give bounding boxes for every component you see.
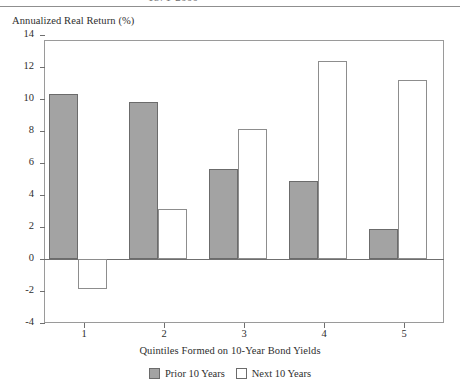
bar-prior-q3 <box>209 169 238 259</box>
bar-prior-q4 <box>289 181 318 259</box>
y-tick-mark <box>40 291 45 292</box>
bar-next-q1 <box>78 259 107 289</box>
legend-label: Next 10 Years <box>252 368 311 379</box>
y-tick-label: 8 <box>4 124 34 135</box>
y-tick-label: 4 <box>4 188 34 199</box>
x-tick-label: 5 <box>384 328 424 339</box>
y-tick-mark <box>40 323 45 324</box>
y-tick-label: 0 <box>4 252 34 263</box>
y-tick-label: 10 <box>4 92 34 103</box>
y-tick-mark <box>40 227 45 228</box>
y-tick-mark <box>40 163 45 164</box>
y-tick-label: -4 <box>4 316 34 327</box>
title-divider <box>0 6 460 7</box>
y-tick-label: 2 <box>4 220 34 231</box>
y-tick-mark <box>40 259 45 260</box>
bar-next-q3 <box>238 129 267 259</box>
x-axis-title: Quintiles Formed on 10-Year Bond Yields <box>0 345 460 356</box>
y-tick-label: 6 <box>4 156 34 167</box>
y-tick-mark <box>40 67 45 68</box>
y-tick-mark <box>40 131 45 132</box>
x-tick-label: 4 <box>304 328 344 339</box>
chart-figure: 1871-2000 Annualized Real Return (%) 141… <box>0 0 460 391</box>
cutoff-title-text: 1871-2000 <box>148 0 198 3</box>
chart-legend: Prior 10 YearsNext 10 Years <box>0 368 460 379</box>
legend-swatch-icon <box>149 368 160 379</box>
x-tick-label: 2 <box>144 328 184 339</box>
bar-next-q2 <box>158 209 187 259</box>
y-tick-mark <box>40 35 45 36</box>
y-tick-mark <box>40 99 45 100</box>
bar-prior-q1 <box>49 94 78 259</box>
y-tick-label: 14 <box>4 28 34 39</box>
x-tick-label: 3 <box>224 328 264 339</box>
legend-label: Prior 10 Years <box>165 368 225 379</box>
bar-prior-q2 <box>129 102 158 259</box>
y-axis-title: Annualized Real Return (%) <box>12 15 134 26</box>
legend-item-next: Next 10 Years <box>236 368 311 379</box>
bar-next-q4 <box>318 61 347 259</box>
bar-next-q5 <box>398 80 427 259</box>
y-tick-label: 12 <box>4 60 34 71</box>
bar-prior-q5 <box>369 229 398 259</box>
y-tick-label: -2 <box>4 284 34 295</box>
x-tick-label: 1 <box>64 328 104 339</box>
legend-swatch-icon <box>236 368 247 379</box>
legend-item-prior: Prior 10 Years <box>149 368 225 379</box>
y-tick-mark <box>40 195 45 196</box>
